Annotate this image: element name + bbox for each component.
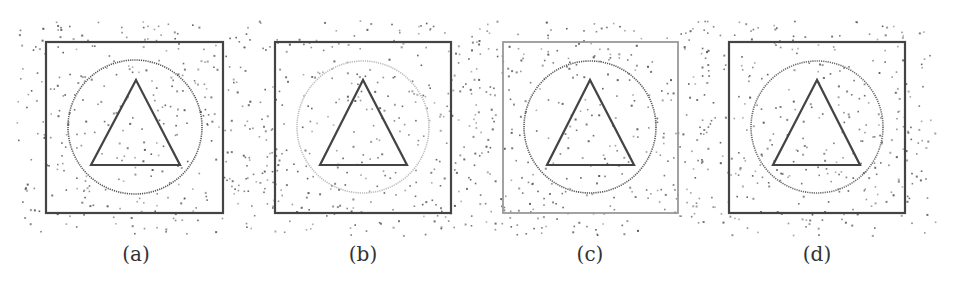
square-shape (729, 42, 905, 213)
square-shape (275, 42, 451, 213)
panels (46, 42, 905, 213)
triangle-shape (547, 80, 634, 165)
panel-label-d: (d) (787, 242, 847, 266)
panel-label-a: (a) (106, 242, 166, 266)
noise-points (17, 20, 937, 237)
triangle-shape (773, 80, 860, 165)
square-shape (46, 42, 223, 213)
panel-c (503, 42, 678, 213)
panel-label-b: (b) (333, 242, 393, 266)
panel-d (729, 42, 905, 213)
panel-b (275, 42, 451, 213)
panel-a (46, 42, 223, 213)
triangle-shape (320, 80, 407, 165)
triangle-shape (91, 80, 180, 165)
square-shape (503, 42, 678, 213)
panel-label-c: (c) (560, 242, 620, 266)
